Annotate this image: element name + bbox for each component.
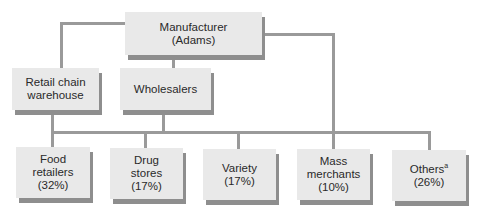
connector-retail-chain-down	[51, 111, 54, 133]
connector-manufacturer-left	[60, 22, 125, 25]
retailer-name: Variety	[222, 162, 257, 174]
drop-drug	[144, 131, 147, 148]
retailer-name: Others	[410, 163, 445, 175]
drop-mass	[332, 131, 335, 149]
distribution-bus	[51, 131, 431, 134]
drop-variety	[237, 131, 240, 149]
node-mass-merchants: Mass merchants(10%)	[297, 149, 370, 200]
connector-wholesalers-down	[162, 111, 165, 133]
retailer-name: Mass merchants	[307, 155, 361, 180]
node-others: Othersa(26%)	[392, 150, 466, 201]
retailer-share: (26%)	[414, 176, 445, 188]
connector-manufacturer-down	[332, 33, 335, 133]
node-food-retailers: Food retailers(32%)	[16, 147, 90, 198]
node-manufacturer: Manufacturer (Adams)	[125, 12, 262, 55]
node-retail-chain-warehouse: Retail chain warehouse	[12, 68, 99, 110]
footnote-mark: a	[444, 162, 448, 169]
retailer-name: Food retailers	[33, 153, 74, 178]
node-drug-stores: Drug stores(17%)	[110, 148, 183, 199]
retailer-share: (10%)	[318, 181, 349, 193]
node-wholesalers: Wholesalers	[120, 68, 211, 110]
retailer-share: (17%)	[224, 175, 255, 187]
connector-manufacturer-right	[265, 33, 335, 36]
retailer-share: (32%)	[38, 179, 69, 191]
drop-food	[51, 131, 54, 147]
retailer-name: Drug stores	[131, 154, 162, 179]
retailer-share: (17%)	[131, 180, 162, 192]
connector-manufacturer-to-wholesalers	[172, 56, 175, 68]
drop-others	[428, 131, 431, 150]
node-variety: Variety(17%)	[203, 149, 276, 200]
connector-to-retail-chain	[60, 22, 63, 68]
